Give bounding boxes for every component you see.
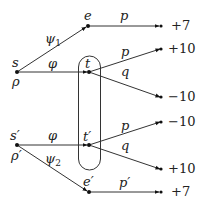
terminal-node: [159, 24, 162, 27]
game-tree-diagram: s ρ e t s′ ρ′ t′ e′ ψ1 φ p p q φ ψ2 p q …: [0, 0, 202, 208]
node-label-t: t: [85, 56, 91, 71]
payoff: +10: [168, 41, 195, 56]
edge-label-q: q: [121, 64, 129, 79]
terminal-node: [159, 95, 162, 98]
payoff: +7: [171, 184, 190, 199]
payoff: +10: [168, 161, 195, 176]
terminal-node: [159, 190, 162, 193]
terminal-node: [159, 47, 162, 50]
edge-label-p: p: [121, 44, 130, 59]
payoff: −10: [168, 114, 195, 129]
edge-label-psi1: ψ1: [45, 31, 61, 48]
node-e-prime: [87, 190, 91, 194]
node-label-e-prime: e′: [83, 174, 94, 189]
node-label-t-prime: t′: [83, 129, 91, 144]
edge-label-psi2: ψ2: [45, 151, 61, 168]
edge-label-phi: φ: [48, 56, 58, 71]
edge-label-q: q: [121, 138, 129, 153]
node-sublabel-rho-prime: ρ′: [10, 148, 22, 163]
edge-label-p: p: [120, 8, 129, 23]
node-e: [86, 24, 90, 28]
node-sublabel-rho: ρ: [11, 74, 20, 89]
node-label-s-prime: s′: [10, 128, 20, 143]
payoff: +7: [171, 18, 190, 33]
terminal-node: [159, 120, 162, 123]
edge-label-phi: φ: [48, 128, 58, 143]
node-label-s: s: [12, 55, 19, 70]
terminal-node: [159, 167, 162, 170]
edge-label-p-prime: p′: [119, 175, 130, 190]
node-s-prime: [15, 143, 19, 147]
node-label-e: e: [84, 8, 92, 23]
edge-label-p: p: [121, 118, 130, 133]
payoff: −10: [168, 89, 195, 104]
